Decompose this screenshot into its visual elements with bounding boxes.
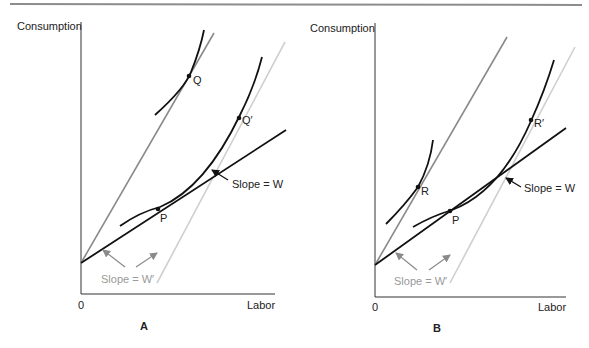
point-r-label: R	[421, 185, 429, 197]
y-axis-label: Consumption	[17, 20, 82, 32]
budget-line-w-prime-shifted	[450, 47, 575, 283]
origin-label: 0	[372, 301, 378, 313]
header-rule	[10, 4, 582, 5]
diagram-canvas: Consumption 0 Labor A Q Q′ P Slope = W S…	[0, 0, 589, 348]
budget-line-w-prime-shifted	[157, 42, 285, 283]
x-axis-label: Labor	[247, 299, 275, 311]
budget-line-w-prime-steep	[375, 37, 507, 265]
panel-label: A	[140, 320, 148, 332]
origin-label: 0	[78, 299, 84, 311]
point-r-prime-label: R′	[534, 117, 544, 129]
point-p	[156, 207, 161, 212]
y-axis-label: Consumption	[310, 22, 375, 34]
indifference-curve-r	[386, 140, 433, 224]
indifference-curve-q	[155, 30, 204, 115]
slope-w-prime-arrow-left	[396, 253, 417, 270]
point-p-label: P	[452, 214, 459, 226]
slope-w-prime-arrow-right	[429, 255, 450, 270]
slope-w-prime-label: Slope = W′	[394, 275, 447, 287]
point-q-label: Q	[193, 74, 202, 86]
slope-w-label: Slope = W	[232, 178, 284, 190]
point-r	[416, 185, 421, 190]
point-q	[187, 74, 192, 79]
indifference-curve-p-r-prime	[413, 60, 554, 227]
x-axis-label: Labor	[538, 301, 566, 313]
slope-w-arrow	[506, 178, 521, 187]
budget-line-w-prime-steep	[81, 33, 214, 263]
point-r-prime	[529, 118, 534, 123]
point-q-prime	[237, 116, 242, 121]
slope-w-prime-arrow-left	[103, 250, 125, 267]
slope-w-label: Slope = W	[524, 182, 576, 194]
slope-w-prime-label: Slope = W′	[101, 273, 154, 285]
point-p	[448, 209, 453, 214]
panel-label: B	[433, 322, 441, 334]
panel-b: Consumption 0 Labor B R R′ P Slope = W S…	[310, 22, 576, 334]
budget-line-w	[81, 130, 286, 263]
point-q-prime-label: Q′	[242, 114, 253, 126]
panel-a: Consumption 0 Labor A Q Q′ P Slope = W S…	[17, 20, 286, 332]
slope-w-prime-arrow-right	[136, 253, 157, 267]
indifference-curve-p-q-prime	[120, 57, 262, 226]
point-p-label: P	[160, 212, 167, 224]
